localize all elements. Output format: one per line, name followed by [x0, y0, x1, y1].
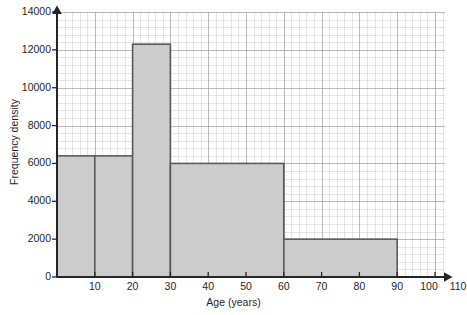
histogram-chart: 14000 12000 10000 8000 6000 4000 2000 0 … [0, 0, 467, 315]
x-axis-arrow [444, 272, 453, 282]
bar-60-90 [284, 239, 397, 277]
histogram-bars [57, 44, 397, 277]
plot-area [0, 0, 467, 315]
x-axis-title: Age (years) [0, 296, 467, 308]
y-axis-title: Frequency density [8, 72, 20, 212]
bar-0-10 [57, 156, 95, 277]
bar-10-20 [95, 156, 133, 277]
bar-30-60 [170, 163, 283, 277]
y-axis-arrow [52, 6, 62, 15]
bar-20-30 [133, 44, 171, 277]
